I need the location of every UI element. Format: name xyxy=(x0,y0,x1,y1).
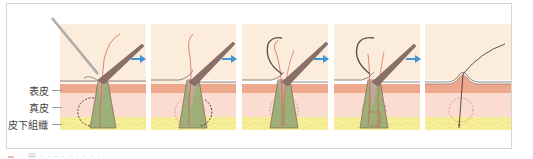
leader-subcutaneous xyxy=(52,124,62,125)
panel-4 xyxy=(334,24,420,130)
label-epidermis: 表皮 xyxy=(29,83,49,98)
caption-marker xyxy=(8,156,14,159)
figure-caption: 図 · · · · · · · · · xyxy=(8,151,101,158)
panel-3 xyxy=(242,24,328,130)
label-dermis: 真皮 xyxy=(29,100,49,115)
panel-1 xyxy=(52,18,146,130)
leader-dermis xyxy=(52,107,62,108)
procedure-diagram xyxy=(0,0,533,158)
label-subcutaneous: 皮下組織 xyxy=(8,117,48,132)
panel-5 xyxy=(425,24,511,130)
panel-2 xyxy=(151,24,236,130)
leader-epidermis xyxy=(52,90,62,91)
